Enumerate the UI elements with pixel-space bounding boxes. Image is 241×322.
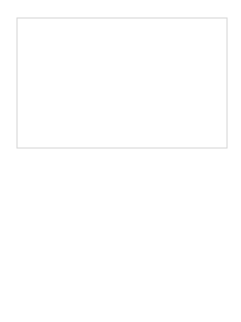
network-diagram [0, 0, 241, 322]
diagram-canvas [0, 0, 241, 322]
diagram-frame [17, 18, 227, 148]
